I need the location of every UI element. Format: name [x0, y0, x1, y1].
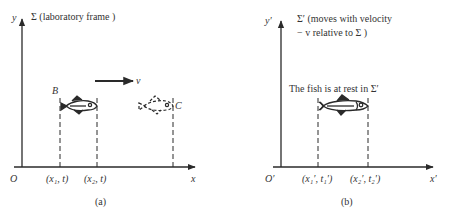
frame-label-sigma: Σ (laboratory frame ) [31, 12, 115, 22]
fish-icon [61, 96, 97, 114]
x-axis-label: x [191, 174, 195, 184]
caption-a: (a) [95, 197, 106, 207]
caption-b: (b) [341, 197, 353, 207]
tick-label-x2-prime: (x₂′, t₂′) [350, 174, 380, 184]
velocity-label: v [136, 76, 140, 86]
panel-b-dashed-lines [318, 98, 368, 167]
origin-prime-label: O′ [265, 174, 274, 184]
tick-label-x1-prime: (x₁′, t₁′) [302, 174, 332, 184]
panel-a-dashed-lines [60, 98, 173, 167]
frame-label-sigma-prime-line2: − v relative to Σ ) [297, 28, 367, 38]
tick-label-x1: (x₁, t) [46, 174, 68, 184]
point-b-label: B [52, 86, 58, 96]
diagram-canvas [0, 0, 456, 217]
fish-dashed-icon [139, 96, 173, 114]
origin-label: O [10, 174, 17, 184]
panel-a-axes [14, 19, 195, 167]
point-c-label: C [175, 101, 182, 111]
y-prime-axis-label: y′ [265, 16, 272, 26]
y-axis-label: y [12, 13, 16, 23]
fish-at-rest-icon [319, 95, 368, 115]
frame-label-sigma-prime-line1: Σ′ (moves with velocity [297, 14, 392, 24]
tick-label-x2: (x₂, t) [84, 174, 106, 184]
fish-at-rest-annotation: The fish is at rest in Σ′ [289, 84, 379, 94]
x-prime-axis-label: x′ [430, 174, 437, 184]
panel-b-axes [273, 21, 433, 167]
